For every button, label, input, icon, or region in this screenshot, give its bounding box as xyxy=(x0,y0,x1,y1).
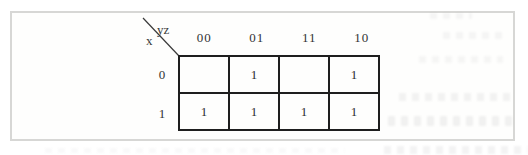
kmap-grid: 1 1 1 1 1 1 xyxy=(178,55,380,131)
col-header-11: 11 xyxy=(283,30,336,46)
kmap-cell-r0c1: 1 xyxy=(229,56,279,93)
col-header-01: 01 xyxy=(231,30,284,46)
kmap-cell-r1c2: 1 xyxy=(279,93,329,130)
col-header-10: 10 xyxy=(336,30,389,46)
kmap-figure: yz x 00 01 11 10 0 1 1 1 1 1 1 1 xyxy=(0,0,528,155)
row-header-1: 1 xyxy=(150,106,174,122)
kmap-variable-side-label: x xyxy=(146,33,153,49)
kmap-cell-r0c3: 1 xyxy=(329,56,379,93)
kmap-cell-r0c0 xyxy=(179,56,229,93)
col-header-00: 00 xyxy=(178,30,231,46)
kmap-cell-r1c3: 1 xyxy=(329,93,379,130)
kmap-cell-r1c0: 1 xyxy=(179,93,229,130)
kmap-row-0: 1 1 xyxy=(179,56,379,93)
kmap-cell-r1c1: 1 xyxy=(229,93,279,130)
kmap-column-headers: 00 01 11 10 xyxy=(178,30,388,46)
kmap-cell-r0c2 xyxy=(279,56,329,93)
kmap-variables-top-label: yz xyxy=(157,22,169,38)
row-header-0: 0 xyxy=(150,67,174,83)
kmap-row-1: 1 1 1 1 xyxy=(179,93,379,130)
